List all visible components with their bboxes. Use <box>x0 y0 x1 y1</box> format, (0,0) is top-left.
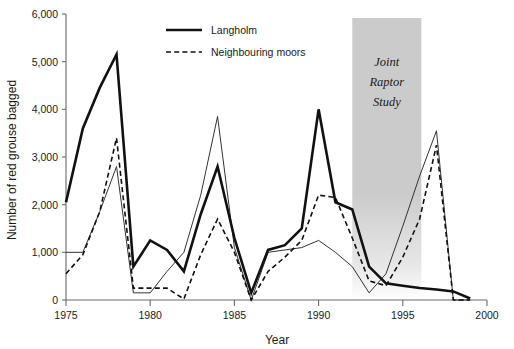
y-tick-label: 0 <box>52 294 58 306</box>
x-tick-label: 1995 <box>391 309 415 321</box>
x-tick-label: 1975 <box>54 309 78 321</box>
legend: LangholmNeighbouring moors <box>166 24 306 58</box>
grouse-bag-line-chart: Joint Raptor Study 01,0002,0003,0004,000… <box>0 0 514 349</box>
x-tick-label: 1990 <box>307 309 331 321</box>
study-band-label-line-2: Raptor <box>368 75 404 89</box>
study-band-label-line-1: Joint <box>374 55 400 69</box>
y-tick-label: 6,000 <box>32 8 58 20</box>
y-tick-label: 2,000 <box>32 199 58 211</box>
y-axis-title: Number of red grouse bagged <box>5 80 19 240</box>
chart-canvas: Joint Raptor Study 01,0002,0003,0004,000… <box>0 0 514 349</box>
x-axis: 197519801985199019952000 <box>54 300 499 321</box>
legend-label: Neighbouring moors <box>211 46 306 58</box>
y-tick-label: 4,000 <box>32 103 58 115</box>
study-band-group: Joint Raptor Study <box>352 18 421 300</box>
y-axis: 01,0002,0003,0004,0005,0006,000 <box>32 8 66 306</box>
study-band-label-line-3: Study <box>373 95 401 109</box>
y-tick-label: 5,000 <box>32 56 58 68</box>
y-tick-label: 1,000 <box>32 246 58 258</box>
x-tick-label: 1985 <box>223 309 247 321</box>
x-tick-label: 2000 <box>475 309 499 321</box>
x-axis-title: Year <box>265 333 289 347</box>
legend-label: Langholm <box>211 24 257 36</box>
y-tick-label: 3,000 <box>32 151 58 163</box>
x-tick-label: 1980 <box>139 309 163 321</box>
